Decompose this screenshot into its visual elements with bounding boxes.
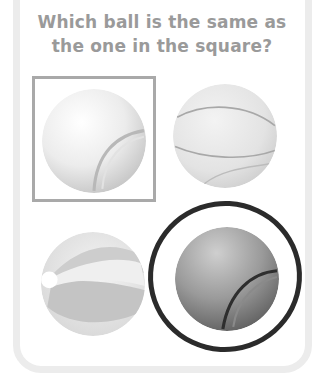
question-title: Which ball is the same as the one in the… [0, 10, 324, 58]
question-line-2: the one in the square? [0, 34, 324, 58]
tennis-ball-icon [42, 89, 146, 193]
option-beach-ball[interactable] [41, 232, 145, 336]
basketball-icon [173, 84, 277, 188]
option-tennis-ball-light[interactable] [42, 89, 146, 193]
beach-ball-icon [41, 232, 145, 336]
option-basketball[interactable] [173, 84, 277, 188]
question-line-1: Which ball is the same as [0, 10, 324, 34]
